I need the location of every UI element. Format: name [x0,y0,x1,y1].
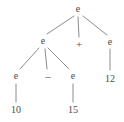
tree-edge-n0-n1 [47,16,74,34]
tree-node-terminal-n8: 10 [11,105,21,115]
tree-node-nonterminal-n6: e [71,71,75,81]
tree-node-nonterminal-n0: e [76,4,80,14]
tree-node-terminal-n9: 15 [68,105,78,115]
tree-edge-n1-n6 [48,48,69,69]
tree-node-operator-n5: – [45,71,51,82]
tree-node-nonterminal-n4: e [14,71,18,81]
tree-node-operator-n2: + [76,39,82,50]
parse-tree-figure: ee+ee–e121015 [0,0,124,122]
tree-edge-n1-n4 [20,48,39,69]
tree-node-nonterminal-n3: e [108,37,112,47]
tree-node-nonterminal-n1: e [41,36,45,46]
tree-node-terminal-n7: 12 [105,74,115,84]
tree-edge-n0-n2 [78,17,79,37]
tree-edge-n0-n3 [83,16,107,35]
tree-edge-n1-n5 [45,49,47,69]
